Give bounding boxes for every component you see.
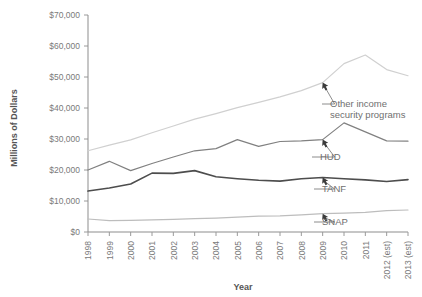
x-tick-label: 2006 (254, 241, 264, 260)
series-label-snap: SNAP (322, 216, 348, 227)
x-axis-title: Year (233, 282, 253, 292)
y-tick-label: $70,000 (49, 10, 80, 20)
line-chart-canvas: $0$10,000$20,000$30,000$40,000$50,000$60… (0, 0, 422, 297)
x-tick-label: 2001 (147, 241, 157, 260)
y-tick-label: $10,000 (49, 196, 80, 206)
x-tick-label: 1998 (83, 241, 93, 260)
x-tick-label: 2010 (339, 241, 349, 260)
series-label-hud: HUD (320, 151, 341, 162)
series-label-other-income-security-programs: Other income (330, 98, 387, 109)
x-tick-label: 2007 (275, 241, 285, 260)
x-tick-label: 2005 (233, 241, 243, 260)
x-tick-label: 2009 (318, 241, 328, 260)
x-tick-label: 2003 (190, 241, 200, 260)
chart-figure: $0$10,000$20,000$30,000$40,000$50,000$60… (0, 0, 422, 297)
y-tick-label: $20,000 (49, 165, 80, 175)
x-tick-label: 2008 (297, 241, 307, 260)
y-tick-label: $60,000 (49, 41, 80, 51)
y-tick-label: $50,000 (49, 72, 80, 82)
y-tick-label: $40,000 (49, 103, 80, 113)
x-tick-label: 1999 (105, 241, 115, 260)
x-tick-label: 2000 (126, 241, 136, 260)
x-tick-label: 2011 (361, 241, 371, 260)
y-tick-label: $30,000 (49, 134, 80, 144)
x-tick-label: 2004 (211, 241, 221, 260)
y-tick-label: $0 (71, 227, 81, 237)
x-tick-label: 2012 (est) (382, 241, 392, 279)
series-label-tanf: TANF (322, 183, 346, 194)
series-label-other-income-security-programs: security programs (330, 109, 406, 120)
x-tick-label: 2013 (est) (403, 241, 413, 279)
x-tick-label: 2002 (169, 241, 179, 260)
y-axis-title: Millions of Dollars (9, 89, 19, 167)
